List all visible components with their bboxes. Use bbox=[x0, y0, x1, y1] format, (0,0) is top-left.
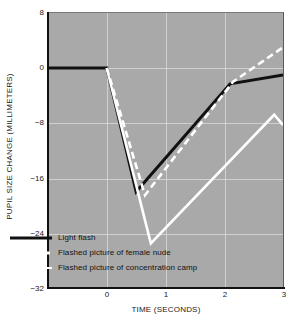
x-axis-tick-label: 1 bbox=[164, 290, 168, 299]
y-axis-tick-label: 0 bbox=[40, 63, 44, 72]
legend-label: Light flash bbox=[58, 233, 96, 242]
y-axis-label-text: PUPIL SIZE CHANGE (MILLIMETERS) bbox=[5, 73, 14, 219]
legend-swatch bbox=[10, 247, 52, 258]
legend-swatch bbox=[10, 232, 52, 243]
x-axis-tick-label: 2 bbox=[223, 290, 227, 299]
x-axis-tick-label: 3 bbox=[282, 290, 286, 299]
x-axis-label: TIME (SECONDS) bbox=[48, 305, 284, 314]
legend-label: Flashed picture of concentration camp bbox=[58, 263, 197, 272]
legend-line-sample bbox=[10, 251, 52, 254]
legend-item[interactable]: Light flash bbox=[10, 230, 236, 245]
legend-item[interactable]: Flashed picture of concentration camp bbox=[10, 260, 236, 275]
chart-figure: PUPIL SIZE CHANGE (MILLIMETERS) 80−8−16−… bbox=[0, 0, 297, 322]
chart-legend: Light flashFlashed picture of female nud… bbox=[10, 230, 236, 275]
legend-line-sample bbox=[10, 236, 52, 239]
x-axis-tick-labels: 0123 bbox=[0, 289, 297, 305]
legend-item[interactable]: Flashed picture of female nude bbox=[10, 245, 236, 260]
y-axis-tick-label: 8 bbox=[40, 8, 44, 17]
y-axis-tick-label: −16 bbox=[30, 173, 44, 182]
legend-line-sample bbox=[10, 267, 52, 269]
legend-label: Flashed picture of female nude bbox=[58, 248, 171, 257]
series-line bbox=[48, 68, 283, 192]
y-axis-tick-label: −8 bbox=[35, 118, 44, 127]
legend-swatch bbox=[10, 262, 52, 273]
x-axis-tick-label: 0 bbox=[105, 290, 109, 299]
